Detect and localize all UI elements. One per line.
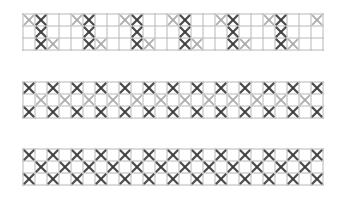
cross-stitch-icon: [289, 151, 298, 160]
cross-stitch-icon: [85, 16, 94, 25]
cross-stitch-icon: [133, 96, 142, 105]
cross-stitch-icon: [277, 96, 286, 105]
cross-stitch-icon: [241, 84, 250, 93]
cross-stitch-icon: [25, 108, 34, 117]
cross-stitch-icon: [181, 96, 190, 105]
cross-stitch-icon: [193, 40, 202, 49]
cross-stitch-icon: [145, 175, 154, 184]
cross-stitch-icon: [217, 175, 226, 184]
cross-stitch-icon: [97, 84, 106, 93]
cross-stitch-icon: [313, 84, 322, 93]
cross-stitch-icon: [133, 163, 142, 172]
cross-stitch-icon: [169, 84, 178, 93]
cross-stitch-icon: [25, 175, 34, 184]
band-3-grid: [22, 148, 324, 186]
cross-stitch-icon: [73, 108, 82, 117]
cross-stitch-icon: [265, 16, 274, 25]
band-1-zigzag: [22, 13, 324, 51]
cross-stitch-icon: [313, 16, 322, 25]
cross-stitch-icon: [193, 108, 202, 117]
cross-stitch-icon: [25, 151, 34, 160]
cross-stitch-icon: [49, 108, 58, 117]
cross-stitch-icon: [313, 108, 322, 117]
cross-stitch-icon: [277, 163, 286, 172]
cross-stitch-icon: [253, 96, 262, 105]
cross-stitch-icon: [181, 28, 190, 37]
cross-stitch-icon: [265, 108, 274, 117]
cross-stitch-icon: [169, 108, 178, 117]
cross-stitch-icon: [37, 163, 46, 172]
cross-stitch-icon: [133, 28, 142, 37]
cross-stitch-icon: [73, 151, 82, 160]
cross-stitch-icon: [229, 96, 238, 105]
cross-stitch-icon: [289, 84, 298, 93]
cross-stitch-icon: [145, 40, 154, 49]
cross-stitch-icon: [265, 84, 274, 93]
cross-stitch-icon: [97, 108, 106, 117]
cross-stitch-icon: [289, 108, 298, 117]
cross-stitch-icon: [157, 163, 166, 172]
cross-stitch-icon: [241, 108, 250, 117]
band-3-checker-dark: [22, 148, 324, 186]
cross-stitch-icon: [241, 151, 250, 160]
cross-stitch-icon: [277, 28, 286, 37]
cross-stitch-icon: [97, 40, 106, 49]
cross-stitch-icon: [121, 16, 130, 25]
cross-stitch-icon: [181, 16, 190, 25]
cross-stitch-icon: [121, 108, 130, 117]
cross-stitch-icon: [49, 40, 58, 49]
cross-stitch-icon: [73, 175, 82, 184]
cross-stitch-icon: [85, 96, 94, 105]
cross-stitch-icon: [169, 151, 178, 160]
cross-stitch-icon: [97, 151, 106, 160]
cross-stitch-icon: [85, 40, 94, 49]
cross-stitch-icon: [241, 175, 250, 184]
cross-stitch-icon: [145, 84, 154, 93]
cross-stitch-icon: [301, 163, 310, 172]
cross-stitch-icon: [265, 175, 274, 184]
cross-stitch-icon: [109, 163, 118, 172]
cross-stitch-icon: [133, 16, 142, 25]
cross-stitch-icon: [217, 151, 226, 160]
cross-stitch-icon: [301, 96, 310, 105]
cross-stitch-icon: [49, 151, 58, 160]
cross-stitch-icon: [217, 108, 226, 117]
cross-stitch-icon: [217, 84, 226, 93]
cross-stitch-icon: [265, 151, 274, 160]
cross-stitch-icon: [229, 40, 238, 49]
cross-stitch-icon: [49, 84, 58, 93]
cross-stitch-icon: [25, 16, 34, 25]
cross-stitch-icon: [193, 151, 202, 160]
cross-stitch-icon: [121, 151, 130, 160]
cross-stitch-icon: [217, 16, 226, 25]
cross-stitch-icon: [97, 175, 106, 184]
cross-stitch-icon: [133, 40, 142, 49]
cross-stitch-icon: [85, 28, 94, 37]
cross-stitch-icon: [241, 40, 250, 49]
cross-stitch-icon: [169, 16, 178, 25]
cross-stitch-icon: [277, 40, 286, 49]
cross-stitch-icon: [73, 16, 82, 25]
cross-stitch-icon: [253, 163, 262, 172]
cross-stitch-icon: [229, 28, 238, 37]
cross-stitch-icon: [181, 40, 190, 49]
cross-stitch-icon: [193, 175, 202, 184]
cross-stitch-icon: [121, 84, 130, 93]
cross-stitch-icon: [181, 163, 190, 172]
cross-stitch-icon: [61, 163, 70, 172]
cross-stitch-icon: [73, 84, 82, 93]
cross-stitch-icon: [37, 28, 46, 37]
cross-stitch-icon: [37, 16, 46, 25]
cross-stitch-icon: [145, 108, 154, 117]
cross-stitch-icon: [313, 151, 322, 160]
band-2-checker-light: [22, 81, 324, 119]
cross-stitch-icon: [145, 151, 154, 160]
band-1-grid: [22, 13, 324, 51]
cross-stitch-icon: [37, 96, 46, 105]
cross-stitch-icon: [313, 175, 322, 184]
cross-stitch-icon: [277, 16, 286, 25]
cross-stitch-icon: [193, 84, 202, 93]
cross-stitch-icon: [37, 40, 46, 49]
cross-stitch-icon: [229, 163, 238, 172]
cross-stitch-icon: [229, 16, 238, 25]
